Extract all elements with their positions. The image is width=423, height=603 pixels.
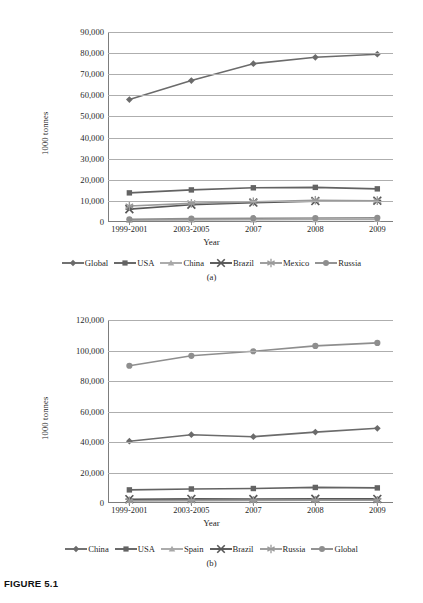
y-tick-label: 100,000 — [76, 346, 104, 355]
data-point-circle — [312, 343, 318, 349]
data-point-circle — [374, 215, 380, 221]
x-axis-title-b: Year — [0, 518, 423, 528]
series-mexico — [126, 196, 381, 210]
legend-marker-diamond-icon — [62, 258, 84, 268]
panel-caption-a: (a) — [0, 272, 423, 282]
legend-label: Global — [85, 258, 108, 268]
data-point-circle — [312, 215, 318, 221]
data-point-diamond — [70, 260, 77, 267]
legend-marker-triangle-icon — [160, 258, 182, 268]
data-point-diamond — [73, 546, 80, 553]
legend-marker-square-icon — [114, 258, 136, 268]
legend-item-brazil[interactable]: Brazil — [210, 258, 254, 268]
x-tick-label: 1999-2001 — [111, 225, 147, 235]
legend-marker-triangle-icon — [161, 544, 183, 554]
legend-label: Brazil — [233, 544, 254, 554]
data-point-square — [189, 486, 194, 491]
legend-item-russia[interactable]: Russia — [260, 544, 306, 554]
legend-item-usa[interactable]: USA — [114, 258, 154, 268]
data-point-square — [127, 190, 132, 195]
x-tick-label: 2007 — [245, 225, 262, 235]
x-tick-label: 2009 — [369, 225, 386, 235]
legend-label: China — [88, 544, 109, 554]
data-point-square — [313, 185, 318, 190]
y-tick-label: 80,000 — [80, 49, 104, 58]
y-tick-label: 20,000 — [80, 175, 104, 184]
data-point-diamond — [250, 433, 257, 440]
x-tick-label: 2008 — [307, 225, 324, 235]
gridline — [108, 74, 393, 75]
data-point-cross — [217, 259, 225, 267]
gridline — [108, 201, 393, 202]
data-point-square — [123, 260, 128, 265]
legend-a: GlobalUSAChinaBrazilMexicoRussia — [0, 258, 423, 268]
data-point-circle — [323, 260, 329, 266]
data-point-circle — [188, 353, 194, 359]
data-point-square — [251, 486, 256, 491]
y-tick-label: 60,000 — [80, 91, 104, 100]
data-point-diamond — [126, 96, 133, 103]
chart-panel-a: 1000 tonnes 010,00020,00030,00040,00050,… — [0, 0, 423, 290]
x-tick-label: 2007 — [245, 506, 262, 516]
legend-label: Brazil — [233, 258, 254, 268]
legend-marker-diamond-icon — [65, 544, 87, 554]
legend-label: China — [183, 258, 204, 268]
data-point-circle — [319, 546, 325, 552]
gridline — [108, 381, 393, 382]
series-usa — [127, 485, 380, 493]
y-tick-label: 90,000 — [80, 28, 104, 37]
legend-marker-star-icon — [260, 544, 282, 554]
legend-item-mexico[interactable]: Mexico — [260, 258, 309, 268]
y-tick-label: 120,000 — [76, 316, 104, 325]
panel-caption-b: (b) — [0, 558, 423, 568]
y-tick-label: 0 — [100, 218, 104, 227]
gridline — [108, 442, 393, 443]
legend-item-usa[interactable]: USA — [115, 544, 155, 554]
plot-area-a — [108, 32, 393, 222]
figure-caption: FIGURE 5.1 — [4, 578, 58, 589]
legend-marker-star-icon — [260, 258, 282, 268]
data-point-diamond — [374, 51, 381, 58]
x-tick-label: 2008 — [307, 506, 324, 516]
series-layer-a — [108, 32, 393, 222]
x-tick-label: 2009 — [369, 506, 386, 516]
gridline — [108, 473, 393, 474]
y-tick-label: 0 — [100, 499, 104, 508]
gridline — [108, 53, 393, 54]
data-point-circle — [126, 363, 132, 369]
legend-item-china[interactable]: China — [160, 258, 204, 268]
chart-panel-b: 1000 tonnes 020,00040,00060,00080,000100… — [0, 292, 423, 562]
gridline — [108, 116, 393, 117]
data-point-diamond — [312, 429, 319, 436]
figure-5-1: 1000 tonnes 010,00020,00030,00040,00050,… — [0, 0, 423, 603]
legend-item-brazil[interactable]: Brazil — [210, 544, 254, 554]
y-axis-tick-labels-a: 010,00020,00030,00040,00050,00060,00070,… — [56, 32, 104, 222]
gridline — [108, 95, 393, 96]
series-global — [126, 340, 380, 369]
legend-label: Global — [334, 544, 357, 554]
y-tick-label: 10,000 — [80, 197, 104, 206]
data-point-square — [313, 485, 318, 490]
y-tick-label: 30,000 — [80, 154, 104, 163]
legend-marker-circle-icon — [315, 258, 337, 268]
legend-item-global[interactable]: Global — [311, 544, 357, 554]
gridline — [108, 351, 393, 352]
legend-marker-cross-icon — [210, 258, 232, 268]
x-tick-label: 2003-2005 — [173, 506, 209, 516]
data-point-square — [123, 546, 128, 551]
legend-item-russia[interactable]: Russia — [315, 258, 361, 268]
x-tick-label: 1999-2001 — [111, 506, 147, 516]
data-point-diamond — [312, 54, 319, 61]
legend-item-global[interactable]: Global — [62, 258, 108, 268]
data-point-square — [127, 487, 132, 492]
data-point-diamond — [188, 431, 195, 438]
legend-label: Russia — [338, 258, 361, 268]
legend-item-china[interactable]: China — [65, 544, 109, 554]
y-tick-label: 20,000 — [80, 468, 104, 477]
gridline — [108, 32, 393, 33]
y-tick-label: 80,000 — [80, 377, 104, 386]
plot-area-b — [108, 320, 393, 503]
data-point-square — [251, 185, 256, 190]
legend-item-spain[interactable]: Spain — [161, 544, 204, 554]
x-axis-title-a: Year — [0, 237, 423, 247]
